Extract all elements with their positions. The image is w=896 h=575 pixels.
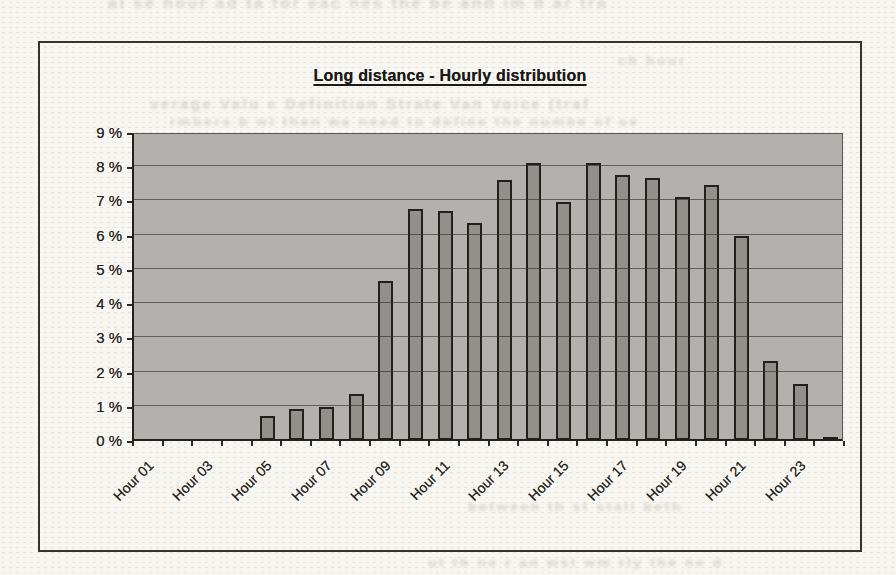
y-axis-tick: [127, 373, 132, 375]
x-axis-tick: [813, 441, 815, 446]
x-axis-tick-label: Hour 09: [337, 457, 394, 514]
x-axis-tick: [576, 441, 578, 446]
bar-hour-20: [704, 185, 719, 440]
x-axis-tick: [280, 441, 282, 446]
bleed-through-text: al se hour ad ta for eac nes the be and …: [108, 0, 608, 12]
x-axis-tick: [369, 441, 371, 446]
bar-hour-13: [497, 180, 512, 440]
y-axis-tick: [127, 270, 132, 272]
x-axis-tick: [132, 441, 134, 446]
y-axis-tick-label: 8 %: [62, 157, 122, 177]
x-axis-tick: [695, 441, 697, 446]
y-axis-tick-label: 2 %: [62, 363, 122, 383]
gridline-8-percent: [134, 165, 842, 166]
gridline-5-percent: [134, 268, 842, 269]
x-axis-tick: [191, 441, 193, 446]
x-axis-tick: [517, 441, 519, 446]
x-axis-tick: [428, 441, 430, 446]
x-axis-tick: [725, 441, 727, 446]
plot-area: [132, 133, 843, 441]
bar-hour-09: [378, 281, 393, 440]
y-axis-tick-label: 9 %: [62, 123, 122, 143]
bar-hour-06: [289, 409, 304, 440]
chart-title: Long distance - Hourly distribution: [40, 67, 860, 85]
x-axis-tick: [547, 441, 549, 446]
gridline-3-percent: [134, 336, 842, 337]
x-axis-tick-label: Hour 21: [692, 457, 749, 514]
x-axis-tick-label: Hour 05: [218, 457, 275, 514]
y-axis-tick-label: 7 %: [62, 191, 122, 211]
x-axis-tick: [458, 441, 460, 446]
bar-hour-12: [467, 223, 482, 440]
bleed-through-text: ut th ne r an wst wm rly the ne d: [428, 554, 724, 569]
y-axis-tick: [127, 407, 132, 409]
gridline-2-percent: [134, 371, 842, 372]
gridline-6-percent: [134, 234, 842, 235]
bar-hour-08: [349, 394, 364, 440]
y-axis-tick: [127, 201, 132, 203]
x-axis-tick-label: Hour 13: [455, 457, 512, 514]
gridline-4-percent: [134, 302, 842, 303]
x-axis-tick-label: Hour 01: [100, 457, 157, 514]
gridline-7-percent: [134, 199, 842, 200]
x-axis-tick: [162, 441, 164, 446]
x-axis-tick: [488, 441, 490, 446]
bar-hour-05: [260, 416, 275, 440]
x-axis-tick-label: Hour 23: [752, 457, 809, 514]
x-axis-tick-label: Hour 19: [633, 457, 690, 514]
bar-hour-21: [734, 236, 749, 440]
y-axis-tick-label: 0 %: [62, 431, 122, 451]
chart-frame: Long distance - Hourly distribution 9 %8…: [38, 41, 862, 552]
x-axis-tick-label: Hour 15: [515, 457, 572, 514]
gridline-1-percent: [134, 405, 842, 406]
bar-hour-07: [319, 407, 334, 440]
x-axis-tick: [399, 441, 401, 446]
x-axis-tick: [251, 441, 253, 446]
y-axis-tick: [127, 304, 132, 306]
y-axis-tick-label: 5 %: [62, 260, 122, 280]
y-axis-tick: [127, 236, 132, 238]
y-axis-tick-label: 6 %: [62, 226, 122, 246]
bar-hour-22: [763, 361, 778, 440]
y-axis-tick-label: 3 %: [62, 328, 122, 348]
x-axis-tick: [843, 441, 845, 446]
x-axis-tick: [665, 441, 667, 446]
x-axis-tick-label: Hour 11: [396, 457, 453, 514]
y-axis-tick-label: 1 %: [62, 397, 122, 417]
x-axis-tick-label: Hour 07: [278, 457, 335, 514]
x-axis-tick-label: Hour 17: [574, 457, 631, 514]
y-axis-tick: [127, 338, 132, 340]
x-axis-tick-label: Hour 03: [159, 457, 216, 514]
y-axis-tick: [127, 167, 132, 169]
y-axis-tick: [127, 133, 132, 135]
bar-hour-18: [645, 178, 660, 440]
x-axis-tick: [636, 441, 638, 446]
y-axis-tick-label: 4 %: [62, 294, 122, 314]
x-axis-tick: [754, 441, 756, 446]
x-axis-tick: [221, 441, 223, 446]
x-axis-tick: [606, 441, 608, 446]
x-axis-tick: [784, 441, 786, 446]
bar-hour-17: [615, 175, 630, 440]
x-axis-tick: [310, 441, 312, 446]
x-axis-tick: [339, 441, 341, 446]
bar-hour-24: [823, 437, 838, 441]
bar-hour-23: [793, 384, 808, 440]
